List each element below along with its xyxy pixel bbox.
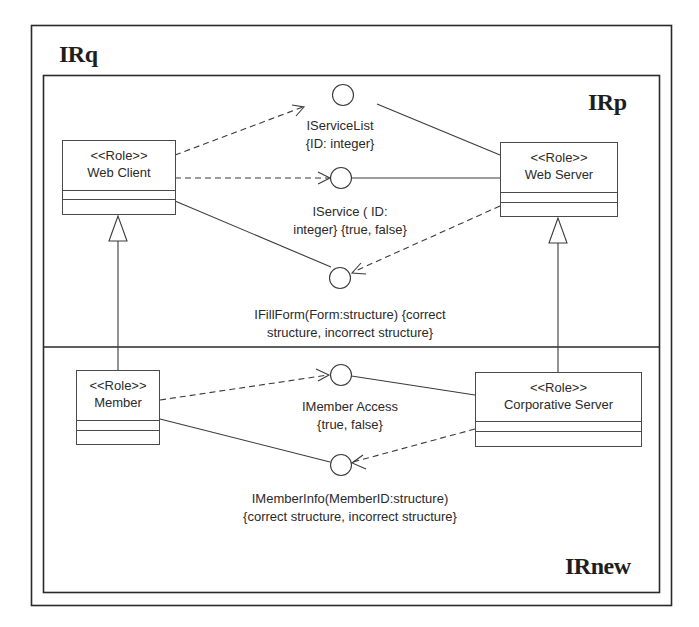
role-name-compartment: <<Role>> Web Client bbox=[63, 141, 175, 190]
attributes-compartment bbox=[77, 420, 159, 421]
interface-label-iservicelist: IServiceList {ID: integer} bbox=[250, 117, 430, 153]
interface-iservicelist-lollipop-icon bbox=[333, 85, 354, 106]
arrowhead-open-icon bbox=[352, 455, 366, 469]
interface-constraint: structure, incorrect structure} bbox=[200, 324, 500, 342]
interface-constraint: {true, false} bbox=[250, 416, 450, 434]
interface-name: IServiceList bbox=[250, 117, 430, 135]
role-stereotype: <<Role>> bbox=[476, 379, 641, 396]
interface-name: IService ( ID: bbox=[250, 203, 450, 221]
dependency-member-imemberaccess bbox=[160, 375, 328, 400]
interface-imemberinfo-lollipop-icon bbox=[331, 455, 352, 476]
interface-label-imemberinfo: IMemberInfo(MemberID:structure) {correct… bbox=[180, 490, 520, 526]
operations-compartment bbox=[476, 431, 641, 432]
role-corporative-server[interactable]: <<Role>> Corporative Server bbox=[475, 372, 642, 447]
frame-label-irnew: IRnew bbox=[565, 554, 631, 578]
role-name: Web Client bbox=[63, 164, 175, 181]
generalization-arrowhead-icon bbox=[549, 218, 567, 243]
attributes-compartment bbox=[476, 421, 641, 422]
attributes-compartment bbox=[501, 192, 617, 193]
uml-role-diagram: IRq IRp IRnew <<Role>> Web Client <<Role… bbox=[0, 0, 699, 627]
interface-name: IMemberInfo(MemberID:structure) bbox=[180, 490, 520, 508]
arrowhead-open-icon bbox=[352, 263, 366, 274]
interface-label-imemberaccess: IMember Access {true, false} bbox=[250, 398, 450, 434]
role-stereotype: <<Role>> bbox=[77, 377, 159, 394]
interface-label-iservice: IService ( ID: integer} {true, false} bbox=[250, 203, 450, 239]
interface-ifillform-lollipop-icon bbox=[330, 268, 351, 289]
role-name-compartment: <<Role>> Web Server bbox=[501, 143, 617, 192]
frame-label-irp: IRp bbox=[588, 90, 627, 114]
role-name: Corporative Server bbox=[476, 396, 641, 413]
arrowhead-open-icon bbox=[292, 105, 304, 116]
interface-imemberaccess-lollipop-icon bbox=[331, 365, 352, 386]
attributes-compartment bbox=[63, 190, 175, 191]
role-stereotype: <<Role>> bbox=[501, 149, 617, 166]
operations-compartment bbox=[63, 199, 175, 200]
interface-constraint: {ID: integer} bbox=[250, 135, 430, 153]
interface-name: IMember Access bbox=[250, 398, 450, 416]
interface-iservice-lollipop-icon bbox=[331, 168, 352, 189]
role-stereotype: <<Role>> bbox=[63, 147, 175, 164]
role-name: Member bbox=[77, 394, 159, 411]
arrowhead-open-icon bbox=[316, 369, 329, 381]
role-web-client[interactable]: <<Role>> Web Client bbox=[62, 140, 176, 215]
generalization-arrowhead-icon bbox=[109, 216, 127, 241]
role-member[interactable]: <<Role>> Member bbox=[76, 370, 160, 445]
role-web-server[interactable]: <<Role>> Web Server bbox=[500, 142, 618, 217]
interface-name: IFillForm(Form:structure) {correct bbox=[200, 306, 500, 324]
interface-constraint: {correct structure, incorrect structure} bbox=[180, 508, 520, 526]
association-corporativeserver-imemberaccess bbox=[352, 376, 476, 395]
role-name-compartment: <<Role>> Member bbox=[77, 371, 159, 420]
role-name: Web Server bbox=[501, 166, 617, 183]
frame-label-irq: IRq bbox=[59, 42, 98, 66]
operations-compartment bbox=[77, 430, 159, 431]
interface-label-ifillform: IFillForm(Form:structure) {correct struc… bbox=[200, 306, 500, 342]
operations-compartment bbox=[501, 202, 617, 203]
role-name-compartment: <<Role>> Corporative Server bbox=[476, 373, 641, 421]
interface-constraint: integer} {true, false} bbox=[250, 221, 450, 239]
